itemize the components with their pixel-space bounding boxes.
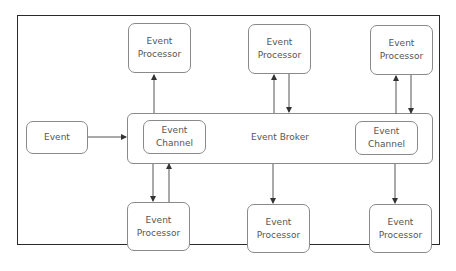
processor-label-line2: Processor	[257, 229, 300, 242]
processor-label-line1: Event	[389, 37, 415, 50]
processor-label-line2: Processor	[258, 49, 301, 62]
event-processor-top-middle: Event Processor	[248, 24, 311, 74]
channel-label-line2: Channel	[156, 137, 193, 150]
channel-label-line2: Channel	[368, 138, 405, 151]
processor-label-line2: Processor	[137, 227, 180, 240]
event-processor-bottom-right: Event Processor	[369, 204, 432, 253]
event-broker-label: Event Broker	[251, 131, 309, 144]
event-label: Event	[44, 131, 70, 144]
processor-label-line1: Event	[147, 35, 173, 48]
event-source: Event	[26, 121, 88, 154]
event-channel-left: Event Channel	[143, 120, 206, 154]
event-processor-bottom-left: Event Processor	[127, 202, 190, 251]
event-channel-right: Event Channel	[355, 121, 418, 155]
event-processor-top-right: Event Processor	[370, 25, 433, 75]
processor-label-line1: Event	[146, 214, 172, 227]
processor-label-line1: Event	[266, 216, 292, 229]
channel-label-line1: Event	[162, 124, 188, 137]
event-processor-bottom-middle: Event Processor	[247, 204, 310, 253]
processor-label-line2: Processor	[138, 48, 181, 61]
event-processor-top-left: Event Processor	[128, 23, 191, 73]
processor-label-line1: Event	[388, 216, 414, 229]
processor-label-line2: Processor	[380, 50, 423, 63]
channel-label-line1: Event	[374, 125, 400, 138]
processor-label-line2: Processor	[379, 229, 422, 242]
processor-label-line1: Event	[267, 36, 293, 49]
